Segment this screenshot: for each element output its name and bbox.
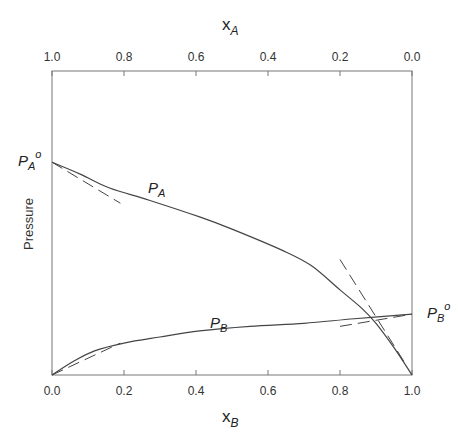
tangent-line [340,314,412,326]
top-tick-label: 0.2 [332,50,349,64]
tick-marks [52,71,412,375]
pa-curve-label: PA [148,179,165,199]
tangent-line [52,162,120,203]
vapor-pressure-chart: 0.00.20.40.60.81.01.00.80.60.40.20.0 xA … [0,0,469,447]
tangent-line [340,259,405,362]
y-axis-title: Pressure [21,198,36,250]
top-tick-label: 0.6 [188,50,205,64]
top-axis-title: xA [222,15,239,38]
pa-pure-label: PAo [18,148,41,172]
pb-pure-label: PBo [427,300,450,324]
tick-labels: 0.00.20.40.60.81.01.00.80.60.40.20.0 [44,50,421,398]
top-tick-label: 1.0 [44,50,61,64]
pb-curve-label: PB [210,314,227,334]
bottom-tick-label: 1.0 [404,384,421,398]
bottom-tick-label: 0.0 [44,384,61,398]
bottom-tick-label: 0.2 [116,384,133,398]
top-tick-label: 0.0 [404,50,421,64]
bottom-tick-label: 0.4 [188,384,205,398]
top-tick-label: 0.4 [260,50,277,64]
bottom-axis-title: xB [222,407,239,430]
plot-frame [52,71,412,375]
curves [52,162,412,375]
top-tick-label: 0.8 [116,50,133,64]
bottom-tick-label: 0.8 [332,384,349,398]
bottom-tick-label: 0.6 [260,384,277,398]
tangent-line [52,343,120,375]
